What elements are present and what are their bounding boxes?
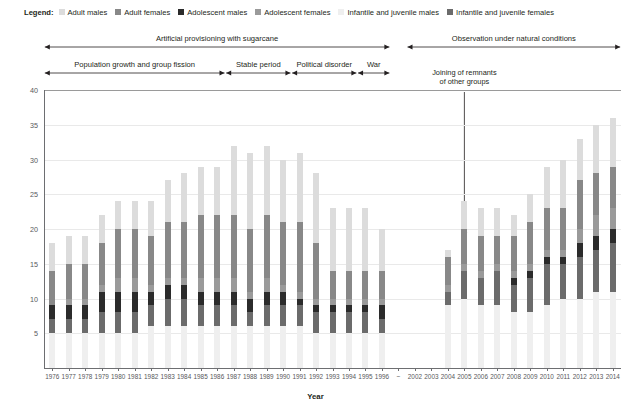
bar-2006[interactable] (478, 208, 484, 368)
x-tick-1982 (151, 368, 152, 371)
bar-1986[interactable] (214, 166, 220, 368)
bar-2012[interactable] (577, 139, 583, 368)
bar-segment (610, 167, 616, 209)
bar-segment (231, 292, 237, 306)
bar-2009[interactable] (527, 194, 533, 368)
bar-segment (379, 299, 385, 306)
bar-2007[interactable] (494, 208, 500, 368)
bar-segment (165, 285, 171, 299)
bar-segment (181, 278, 187, 285)
legend-label-infantile-juvenile-females: Infantile and juvenile females (456, 8, 554, 17)
bar-segment (511, 215, 517, 236)
bar-segment (132, 201, 138, 229)
bar-segment (99, 333, 105, 368)
bar-segment (115, 333, 121, 368)
bar-1982[interactable] (148, 201, 154, 368)
bar-segment (330, 208, 336, 271)
bar-2005[interactable] (461, 201, 467, 368)
bar-segment (264, 215, 270, 278)
bar-segment (313, 305, 319, 312)
y-axis-label: Number of individuals (0, 68, 1, 150)
bar-1991[interactable] (297, 153, 303, 368)
bar-segment (478, 305, 484, 368)
bar-segment (247, 326, 253, 368)
bar-1983[interactable] (165, 180, 171, 368)
x-tick-2010 (547, 368, 548, 371)
bar-1984[interactable] (181, 173, 187, 368)
legend-item-adolescent-males: Adolescent males (178, 8, 247, 17)
bar-segment (527, 222, 533, 264)
bar-segment (247, 312, 253, 326)
bar-segment (231, 146, 237, 215)
bar-segment (346, 305, 352, 312)
bar-segment (148, 285, 154, 292)
bar-segment (231, 326, 237, 368)
bar-1995[interactable] (362, 208, 368, 368)
bar-segment (346, 208, 352, 271)
bar-segment (527, 278, 533, 313)
gridline-25 (44, 194, 621, 195)
bar-1993[interactable] (330, 208, 336, 368)
bar-segment (593, 173, 599, 215)
bar-segment (577, 243, 583, 257)
callout-line-1: Joining of remnants (404, 68, 524, 77)
bar-1992[interactable] (313, 173, 319, 368)
bar-segment (346, 299, 352, 306)
bar-segment (478, 278, 484, 306)
bar-segment (577, 180, 583, 229)
x-tick-1976 (52, 368, 53, 371)
bar-segment (247, 292, 253, 299)
bar-segment (280, 285, 286, 292)
x-tick-label-2014: 2014 (599, 373, 627, 380)
y-axis-line (44, 90, 45, 368)
bar-segment (264, 326, 270, 368)
bar-segment (148, 201, 154, 236)
x-tick-1978 (85, 368, 86, 371)
bar-segment (115, 312, 121, 333)
bar-segment (560, 208, 566, 250)
bar-segment (280, 305, 286, 326)
bar-1979[interactable] (99, 215, 105, 368)
bar-segment (544, 305, 550, 368)
bar-segment (214, 326, 220, 368)
bar-1978[interactable] (82, 236, 88, 368)
bar-1990[interactable] (280, 160, 286, 369)
bar-segment (82, 299, 88, 306)
annotation-arrow-top-0 (45, 44, 390, 49)
bar-segment (610, 229, 616, 243)
bar-2004[interactable] (445, 250, 451, 368)
x-tick-2002 (415, 368, 416, 371)
bar-1976[interactable] (49, 243, 55, 368)
bar-segment (181, 173, 187, 222)
legend-item-infantile-juvenile-males: Infantile and juvenile males (338, 8, 439, 17)
bar-1988[interactable] (247, 153, 253, 368)
bar-1980[interactable] (115, 201, 121, 368)
bar-1994[interactable] (346, 208, 352, 368)
bar-segment (198, 326, 204, 368)
bar-segment (165, 180, 171, 222)
y-tick-label-10: 10 (20, 295, 38, 304)
bar-2010[interactable] (544, 166, 550, 368)
bar-2013[interactable] (593, 125, 599, 368)
bar-2014[interactable] (610, 118, 616, 368)
bar-segment (181, 222, 187, 278)
bar-segment (132, 292, 138, 313)
x-tick-1983 (168, 368, 169, 371)
bar-2011[interactable] (560, 160, 566, 369)
legend-label-adolescent-males: Adolescent males (187, 8, 247, 17)
bar-segment (264, 146, 270, 215)
bar-segment (379, 319, 385, 333)
bar-1987[interactable] (231, 146, 237, 368)
bar-2008[interactable] (511, 215, 517, 368)
x-tick-1985 (201, 368, 202, 371)
bar-1996[interactable] (379, 229, 385, 368)
bar-1977[interactable] (66, 236, 72, 368)
bar-1985[interactable] (198, 166, 204, 368)
bar-segment (577, 299, 583, 368)
annotation-label-population-growth: Population growth and group fission (0, 60, 285, 69)
bar-segment (544, 264, 550, 306)
y-tick-label-20: 20 (20, 225, 38, 234)
bar-1981[interactable] (132, 201, 138, 368)
bar-1989[interactable] (264, 146, 270, 368)
x-tick-2007 (497, 368, 498, 371)
